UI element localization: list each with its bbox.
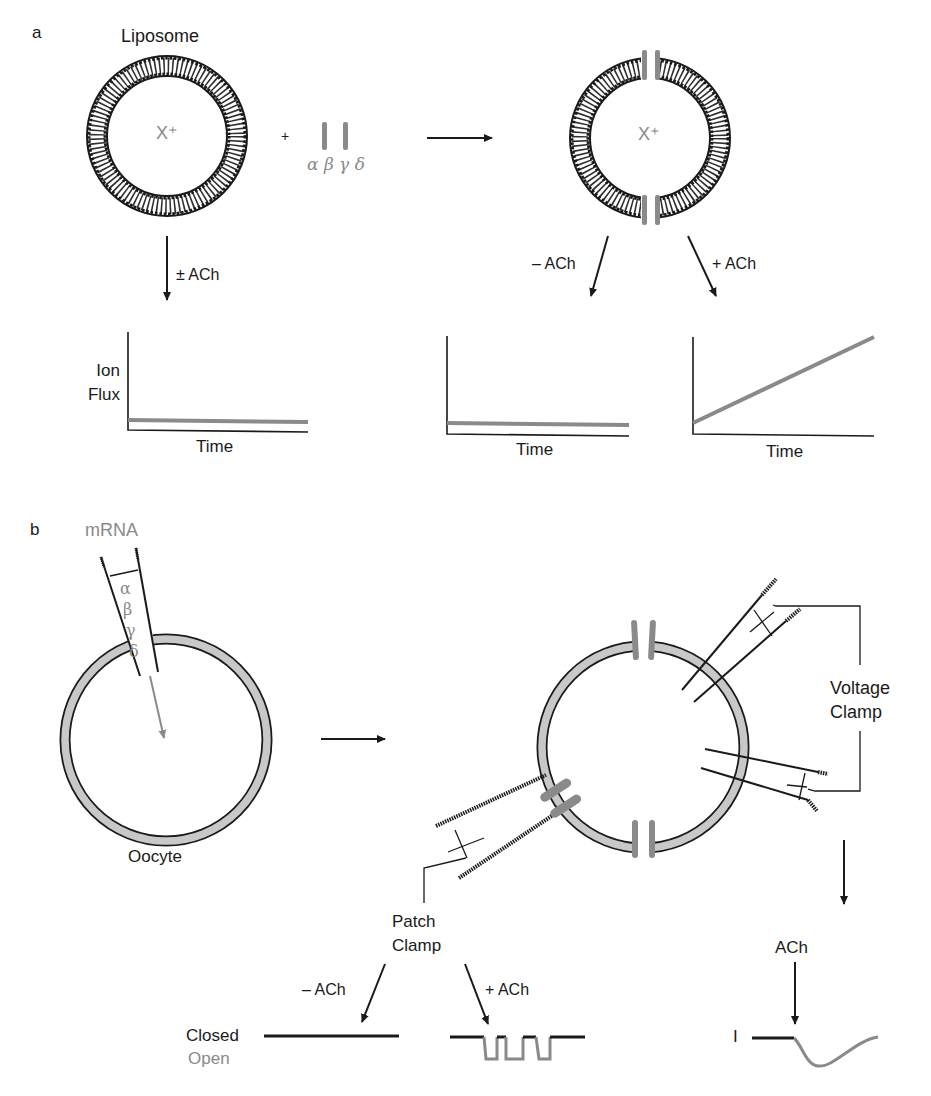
ion-label-left: X⁺	[156, 123, 178, 144]
patch-clamp-label: Patch Clamp	[392, 910, 441, 958]
voltage-clamp-bracket	[773, 605, 860, 665]
patch-branch-arrow-minus	[362, 964, 385, 1022]
panel-b-label: b	[30, 520, 39, 540]
panel-a-label: a	[32, 23, 41, 43]
subunit-alpha: α	[120, 578, 139, 599]
current-label: I	[733, 1027, 738, 1047]
y-axis-label-line2: Flux	[80, 383, 120, 407]
ach-label: ACh	[775, 938, 808, 958]
patch-clamp-bracket	[424, 858, 466, 903]
voltage-clamp-line1: Voltage	[830, 676, 890, 700]
oocyte	[65, 639, 267, 841]
ion-flux-graph-3	[693, 337, 874, 436]
macroscopic-current-trace	[752, 1037, 878, 1066]
plus-sign: +	[281, 128, 289, 144]
subunit-gamma: γ	[126, 620, 139, 641]
x-axis-label-graph-3: Time	[766, 442, 803, 462]
patch-clamp-pipette	[436, 775, 583, 878]
patch-branch-label-plus-ach: + ACh	[485, 981, 529, 999]
subunit-stack: α β γ δ	[120, 578, 139, 662]
ion-flux-graph-1	[128, 332, 308, 432]
closed-label: Closed	[186, 1026, 239, 1046]
subunits-label: α β γ δ	[307, 155, 365, 175]
y-axis-label-line1: Ion	[80, 359, 120, 383]
voltage-clamp-bracket-lower	[808, 731, 860, 791]
patch-clamp-line2: Clamp	[392, 934, 441, 958]
voltage-clamp-electrode-lower	[701, 749, 828, 811]
liposome-label: Liposome	[121, 26, 199, 47]
receptor-subunits-icon	[322, 122, 348, 150]
branch-arrow-minus	[591, 236, 608, 296]
voltage-clamp-electrode-upper	[682, 579, 800, 702]
oocyte-label: Oocyte	[128, 847, 182, 867]
x-axis-label-graph-1: Time	[196, 437, 233, 457]
branch-label-minus-ach: – ACh	[532, 255, 576, 273]
open-label: Open	[188, 1049, 230, 1069]
ion-label-right: X⁺	[638, 124, 660, 145]
x-axis-label-graph-2: Time	[516, 440, 553, 460]
voltage-clamp-label: Voltage Clamp	[830, 676, 890, 724]
mrna-label: mRNA	[85, 520, 138, 541]
branch-label-plus-ach: + ACh	[712, 255, 756, 273]
subunit-beta: β	[123, 599, 139, 620]
voltage-clamp-line2: Clamp	[830, 700, 890, 724]
ion-flux-graph-2	[447, 336, 629, 436]
patch-branch-label-minus-ach: – ACh	[302, 981, 346, 999]
subunit-delta: δ	[129, 641, 139, 662]
patch-clamp-line1: Patch	[392, 910, 441, 934]
oocyte-with-channels	[542, 620, 744, 858]
single-channel-trace	[450, 1037, 585, 1059]
figure-canvas	[0, 0, 931, 1096]
y-axis-label: Ion Flux	[80, 359, 120, 407]
branch-label-plusminus-ach: ± ACh	[176, 266, 219, 284]
